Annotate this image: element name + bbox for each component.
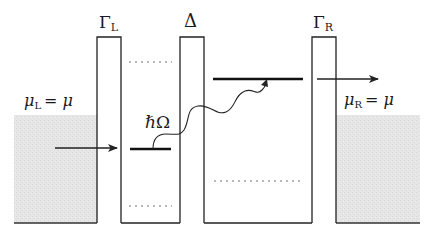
double-dot-energy-diagram: ΓL Δ ΓR μL= μ μR= μ ℏΩ	[0, 0, 431, 240]
barrier-gamma-left	[97, 37, 121, 223]
label-delta: Δ	[184, 10, 197, 31]
label-photon-energy: ℏΩ	[145, 112, 170, 132]
barrier-gamma-right	[312, 37, 336, 223]
label-mu-left: μL= μ	[24, 91, 73, 111]
label-gamma-left: ΓL	[99, 12, 119, 34]
right-reservoir	[336, 115, 420, 223]
potential-profile	[97, 37, 336, 223]
label-gamma-right: ΓR	[313, 12, 334, 34]
left-reservoir	[14, 115, 97, 223]
label-mu-right: μR= μ	[344, 90, 394, 110]
